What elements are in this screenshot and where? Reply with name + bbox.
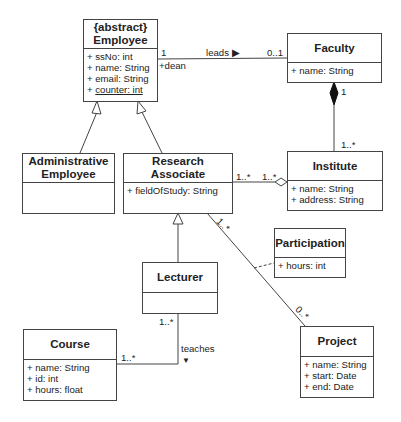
faculty-name: Faculty	[314, 42, 354, 55]
class-project: Project + name: String + start: Date + e…	[300, 326, 374, 398]
leads-employee-role: +dean	[159, 60, 186, 71]
participation-name: Participation	[275, 237, 345, 250]
teaches-label: teaches	[181, 343, 215, 354]
ra-institute-ra-multiplicity: 1..*	[236, 171, 250, 182]
faculty-institute-faculty-multiplicity: 1	[341, 86, 346, 97]
attribute: + name: String	[304, 359, 370, 370]
ra-name-line2: Associate	[151, 168, 205, 181]
leads-faculty-multiplicity: 0..1	[267, 47, 283, 58]
participation-attributes: + hours: int	[275, 258, 345, 273]
teaches-course-multiplicity: 1..*	[121, 352, 135, 363]
class-course: Course + name: String + id: int + hours:…	[23, 329, 117, 401]
attribute: + hours: float	[27, 384, 113, 395]
project-attributes: + name: String + start: Date + end: Date	[301, 357, 373, 394]
faculty-institute-institute-multiplicity: 1..*	[341, 139, 355, 150]
class-faculty-header: Faculty	[288, 34, 381, 63]
institute-name: Institute	[313, 160, 358, 173]
class-participation-header: Participation	[275, 229, 345, 258]
attribute: + name: String	[291, 183, 379, 194]
class-administrative-employee-header: Administrative Employee	[23, 154, 114, 183]
attribute: + end: Date	[304, 381, 370, 392]
course-attributes: + name: String + id: int + hours: float	[24, 360, 116, 397]
lecturer-attributes	[143, 293, 217, 297]
teaches-lecturer-multiplicity: 1..*	[159, 316, 173, 327]
class-participation: Participation + hours: int	[274, 228, 346, 278]
class-institute: Institute + name: String + address: Stri…	[287, 151, 383, 211]
employee-name: Employee	[93, 34, 147, 47]
static-attribute-text: counter: int	[95, 84, 142, 95]
attribute: + fieldOfStudy: String	[127, 185, 229, 196]
class-lecturer: Lecturer	[142, 262, 218, 314]
attribute: + start: Date	[304, 370, 370, 381]
teaches-direction-arrow-icon: ▼	[182, 355, 190, 366]
attribute: + email: String	[87, 73, 154, 84]
project-name: Project	[318, 335, 357, 348]
attribute: + name: String	[27, 362, 113, 373]
admin-name-line1: Administrative	[29, 155, 109, 168]
ra-institute-institute-multiplicity: 1..*	[262, 171, 276, 182]
attribute: + id: int	[27, 373, 113, 384]
leads-employee-multiplicity: 1	[161, 47, 166, 58]
class-employee-header: {abstract} Employee	[84, 20, 157, 49]
class-administrative-employee: Administrative Employee	[22, 153, 115, 214]
admin-name-line2: Employee	[41, 168, 95, 181]
lecturer-name: Lecturer	[157, 271, 203, 284]
ra-name-line1: Research	[152, 155, 204, 168]
research-associate-attributes: + fieldOfStudy: String	[124, 183, 232, 198]
static-attribute: + counter: int	[87, 84, 154, 95]
administrative-employee-attributes	[23, 183, 114, 187]
class-project-header: Project	[301, 327, 373, 357]
leads-label: leads ▶	[206, 47, 240, 58]
class-employee: {abstract} Employee + ssNo: int + name: …	[83, 19, 158, 102]
attribute: + ssNo: int	[87, 51, 154, 62]
class-institute-header: Institute	[288, 152, 382, 181]
attribute: + address: String	[291, 194, 379, 205]
attribute: + name: String	[87, 62, 154, 73]
class-course-header: Course	[24, 330, 116, 360]
class-research-associate-header: Research Associate	[124, 154, 232, 183]
course-name: Course	[50, 338, 90, 351]
employee-stereotype: {abstract}	[94, 21, 148, 34]
class-faculty: Faculty + name: String	[287, 33, 382, 83]
class-lecturer-header: Lecturer	[143, 263, 217, 293]
attribute: + name: String	[291, 65, 378, 76]
class-research-associate: Research Associate + fieldOfStudy: Strin…	[123, 153, 233, 214]
faculty-attributes: + name: String	[288, 63, 381, 78]
institute-attributes: + name: String + address: String	[288, 181, 382, 207]
attribute: + hours: int	[278, 260, 342, 271]
employee-attributes: + ssNo: int + name: String + email: Stri…	[84, 49, 157, 97]
